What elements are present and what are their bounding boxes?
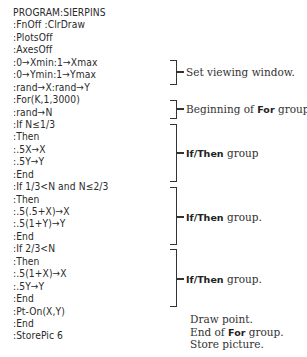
annotation-viewing-window: Set viewing window. (186, 66, 295, 78)
code-line: :Then (13, 194, 108, 206)
code-line: :End (13, 169, 108, 181)
program-listing: PROGRAM:SIERPINS :FnOff :ClrDraw :PlotsO… (13, 7, 108, 343)
code-line: :rand→X:rand→Y (13, 82, 108, 94)
annotation-ifthen-2: If/Then group. (186, 211, 262, 224)
annotation-draw-point: Draw point. (190, 313, 253, 325)
code-line: :PlotsOff (13, 32, 108, 44)
bracket-ifthen-2 (170, 187, 177, 245)
bracket-tick (177, 278, 184, 280)
code-line: :End (13, 231, 108, 243)
bracket-viewing-window (170, 60, 177, 85)
code-line: :If N≤1/3 (13, 119, 108, 131)
code-line: :If 2/3<N (13, 243, 108, 255)
bracket-ifthen-1 (170, 124, 177, 182)
annotation-ifthen-3: If/Then group. (186, 273, 262, 286)
bracket-tick (177, 71, 184, 73)
code-line: :If 1/3<N and N≤2/3 (13, 181, 108, 193)
code-line: :.5(1+X)→X (13, 268, 108, 280)
code-line: :.5Y→Y (13, 281, 108, 293)
bracket-tick (177, 216, 184, 218)
bracket-tick (177, 152, 184, 154)
code-line: :Then (13, 131, 108, 143)
code-line: :FnOff :ClrDraw (13, 19, 108, 31)
bracket-ifthen-3 (170, 249, 177, 307)
code-line: :0→Xmin:1→Xmax (13, 57, 108, 69)
code-line: :.5X→X (13, 144, 108, 156)
code-line: :.5(.5+X)→X (13, 206, 108, 218)
annotation-for-begin: Beginning of For group. (186, 103, 307, 116)
code-line: :For(K,1,3000) (13, 94, 108, 106)
bracket-tick (177, 108, 184, 110)
code-line: PROGRAM:SIERPINS (13, 7, 108, 19)
code-line: :End (13, 293, 108, 305)
code-line: :.5Y→Y (13, 156, 108, 168)
code-line: :rand→N (13, 107, 108, 119)
code-line: :End (13, 318, 108, 330)
bracket-for-begin (170, 100, 177, 119)
code-line: :Pt-On(X,Y) (13, 306, 108, 318)
annotation-ifthen-1: If/Then group (186, 147, 258, 160)
code-line: :AxesOff (13, 44, 108, 56)
annotation-store-picture: Store picture. (190, 338, 264, 350)
code-line: :Then (13, 256, 108, 268)
code-line: :0→Ymin:1→Ymax (13, 69, 108, 81)
code-line: :.5(1+Y)→Y (13, 218, 108, 230)
code-line: :StorePic 6 (13, 330, 108, 342)
